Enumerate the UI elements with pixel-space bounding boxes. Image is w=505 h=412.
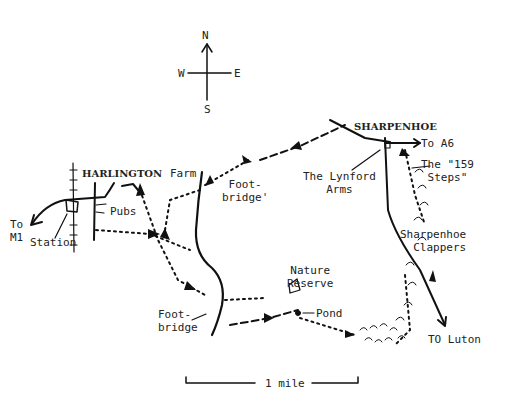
compass-rose-icon (188, 44, 231, 100)
label-159-steps: The "159Steps" (421, 158, 474, 184)
walking-route-map: N W E S HARLINGTON SHARPENHOE ToM1 Stati… (0, 0, 505, 412)
label-footbridge-south: Foot-bridge (158, 308, 198, 334)
label-to-luton: TO Luton (428, 333, 481, 346)
label-lynford-arms: The LynfordArms (303, 170, 376, 196)
compass-north-label: N (202, 29, 209, 42)
compass-east-label: E (234, 67, 241, 80)
label-footbridge-north: Foot-bridge' (222, 178, 268, 204)
label-farm: Farm (170, 167, 197, 180)
label-to-a6: To A6 (421, 137, 454, 150)
label-sharpenhoe-clappers: Sharpenhoe Clappers (400, 228, 466, 254)
road (330, 120, 446, 326)
label-pond: Pond (316, 307, 343, 320)
river (196, 172, 223, 335)
label-station: Station (30, 236, 76, 249)
map-drawing (0, 0, 505, 412)
scale-label: 1 mile (265, 377, 305, 390)
label-nature-reserve: NatureReserve (287, 264, 333, 290)
compass-west-label: W (178, 67, 185, 80)
town-harlington: HARLINGTON (82, 167, 162, 180)
footpath-route (230, 125, 345, 325)
label-pubs: Pubs (110, 205, 137, 218)
label-to-m1: ToM1 (10, 218, 23, 244)
town-sharpenhoe: SHARPENHOE (354, 120, 437, 133)
compass-south-label: S (204, 103, 211, 116)
